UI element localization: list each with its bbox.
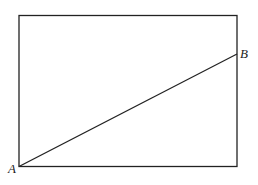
diagram-canvas: [0, 0, 258, 185]
rectangle: [19, 16, 237, 167]
point-label-b: B: [240, 47, 248, 60]
point-label-a: A: [8, 162, 16, 175]
segment-ab: [19, 54, 237, 167]
